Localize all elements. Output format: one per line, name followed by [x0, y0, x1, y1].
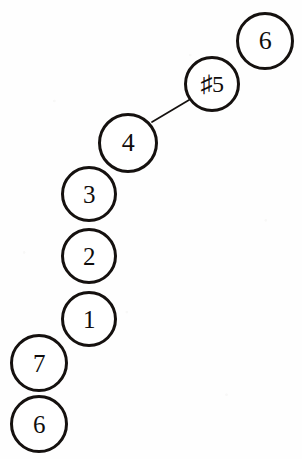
circle-label-node-6-top: 6	[259, 28, 272, 54]
circle-node-sharp5[interactable]: ♯5	[184, 56, 240, 112]
circle-label-node-7: 7	[33, 350, 45, 375]
circle-node-3[interactable]: 3	[61, 166, 117, 222]
circle-label-node-sharp5: ♯5	[201, 72, 224, 96]
connector-line-node-4-node-sharp5	[152, 100, 189, 122]
circle-node-6-bottom[interactable]: 6	[10, 395, 68, 453]
circle-node-2[interactable]: 2	[61, 228, 117, 284]
circle-label-node-2: 2	[83, 243, 95, 268]
circle-label-node-1: 1	[83, 306, 95, 331]
circle-node-6-top[interactable]: 6	[236, 12, 294, 70]
diagram-canvas: 6♯5432176	[0, 0, 302, 459]
circle-node-7[interactable]: 7	[10, 334, 68, 392]
circle-node-4[interactable]: 4	[98, 113, 158, 173]
circle-label-node-6-bottom: 6	[33, 411, 45, 436]
circle-label-node-3: 3	[83, 181, 95, 206]
circle-node-1[interactable]: 1	[61, 291, 117, 347]
circle-label-node-4: 4	[122, 130, 135, 156]
